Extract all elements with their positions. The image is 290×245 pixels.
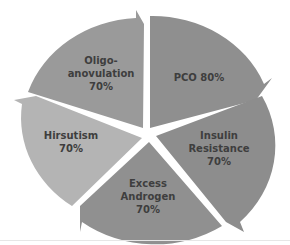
label-line: 70% [188, 155, 249, 168]
label-line: Resistance [188, 142, 249, 155]
label-line: Oligo- [68, 54, 135, 67]
label-line: anovulation [68, 67, 135, 80]
label-line: Insulin [188, 129, 249, 142]
label-excess-androgen: Excess Androgen 70% [121, 177, 176, 216]
label-line: 70% [121, 203, 176, 216]
label-hirsutism: Hirsutism 70% [44, 129, 98, 155]
label-line: Androgen [121, 190, 176, 203]
label-line: 70% [44, 142, 98, 155]
label-line: 70% [68, 80, 135, 93]
label-pco: PCO 80% [174, 71, 225, 84]
label-line: Hirsutism [44, 129, 98, 142]
divider [0, 240, 290, 241]
label-line: Excess [121, 177, 176, 190]
label-insulin-resistance: Insulin Resistance 70% [188, 129, 249, 168]
label-line: PCO 80% [174, 71, 225, 84]
label-oligo-anovulation: Oligo- anovulation 70% [68, 54, 135, 93]
